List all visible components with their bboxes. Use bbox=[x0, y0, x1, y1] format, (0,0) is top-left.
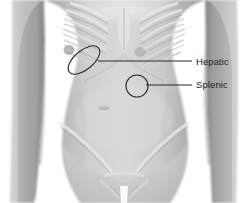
nipple-left bbox=[64, 45, 75, 55]
hepatic-label: Hepatic bbox=[196, 56, 229, 67]
anatomical-figure: Hepatic Splenic bbox=[0, 0, 249, 203]
body-group bbox=[0, 0, 249, 203]
splenic-label: Splenic bbox=[196, 79, 228, 90]
perineum-highlight bbox=[120, 186, 128, 203]
nipple-right bbox=[135, 47, 146, 57]
torso-illustration bbox=[0, 0, 249, 203]
